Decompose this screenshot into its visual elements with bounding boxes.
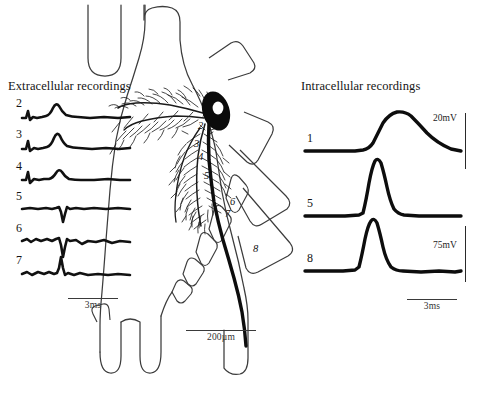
anatomy-site-number-8: 8 bbox=[253, 243, 258, 254]
extracellular-trace-2 bbox=[22, 104, 130, 120]
anatomy-site-number-5: 5 bbox=[204, 170, 209, 181]
anatomy-site-number-2: 2 bbox=[198, 120, 203, 131]
anatomy-site-number-6: 6 bbox=[230, 196, 235, 207]
intracellular-voltage-scalebar-75mv bbox=[465, 226, 466, 282]
intracellular-voltage-scalebar-20mv-label: 20mV bbox=[433, 113, 457, 123]
intracellular-trace-5 bbox=[305, 159, 461, 216]
anatomy-site-number-7: 7 bbox=[225, 208, 230, 219]
extracellular-trace-6 bbox=[22, 238, 130, 257]
intracellular-voltage-scalebar-20mv bbox=[465, 113, 466, 169]
intracellular-traces bbox=[303, 105, 473, 295]
intracellular-scalebar-label: 3ms bbox=[407, 301, 457, 311]
nerve-root-right-middle bbox=[229, 112, 293, 273]
extracellular-trace-3 bbox=[22, 134, 130, 151]
extracellular-trace-label-3: 3 bbox=[16, 127, 22, 142]
extracellular-scalebar-label: 3ms bbox=[68, 300, 118, 310]
extracellular-trace-4 bbox=[22, 170, 130, 183]
extracellular-trace-7 bbox=[22, 257, 130, 275]
extracellular-trace-label-5: 5 bbox=[16, 189, 22, 204]
figure-canvas: 1 2 3 4 5 6 7 8 200µm Extracellular reco… bbox=[0, 0, 477, 416]
extracellular-traces bbox=[18, 96, 148, 296]
anatomy-site-number-3: 3 bbox=[194, 138, 199, 149]
extracellular-time-scalebar: 3ms bbox=[68, 298, 118, 310]
intracellular-scalebar-line bbox=[407, 299, 457, 300]
anatomy-site-number-4: 4 bbox=[198, 151, 203, 162]
intracellular-panel-title: Intracellular recordings bbox=[301, 79, 420, 94]
extracellular-trace-label-6: 6 bbox=[16, 221, 22, 236]
anatomy-scalebar-label: 200µm bbox=[186, 332, 256, 342]
extracellular-scalebar-line bbox=[68, 298, 118, 299]
intracellular-trace-label-1: 1 bbox=[307, 131, 313, 146]
extracellular-trace-5 bbox=[22, 207, 130, 222]
extracellular-trace-label-2: 2 bbox=[16, 96, 22, 111]
extracellular-panel-title: Extracellular recordings bbox=[8, 79, 131, 94]
extracellular-trace-label-4: 4 bbox=[16, 159, 22, 174]
intracellular-voltage-scalebar-75mv-label: 75mV bbox=[433, 240, 457, 250]
nerve-root-upper-right bbox=[209, 42, 255, 80]
extracellular-trace-label-7: 7 bbox=[16, 253, 22, 268]
anatomy-scalebar: 200µm bbox=[186, 330, 256, 342]
anatomy-site-number-1: 1 bbox=[215, 102, 220, 112]
intracellular-trace-label-8: 8 bbox=[307, 251, 313, 266]
intracellular-time-scalebar: 3ms bbox=[407, 299, 457, 311]
anatomy-scalebar-line bbox=[186, 330, 256, 331]
intracellular-trace-label-5: 5 bbox=[307, 196, 313, 211]
